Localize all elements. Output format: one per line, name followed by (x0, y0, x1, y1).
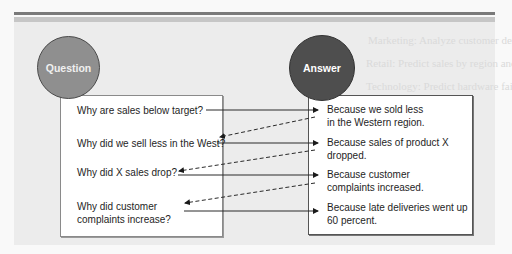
ghost-text-line: Retail: Predict sales by region and dist… (366, 57, 512, 69)
answer-circle: Answer (289, 35, 355, 101)
question-line: Why did X sales drop? (77, 166, 177, 179)
answer-line: Because late deliveries went up (327, 201, 468, 214)
answer-line: Because we sold less (327, 103, 425, 116)
answer-line: Because sales of product X (327, 136, 449, 149)
question-item: Why did we sell less in the West? (77, 137, 225, 150)
five-whys-figure: Marketing: Analyze customer demographics… (0, 0, 512, 254)
question-line: complaints increase? (77, 213, 171, 226)
question-label: Question (46, 62, 92, 74)
answer-item: Because customer complaints increased. (327, 168, 424, 194)
top-rule-dark (14, 12, 495, 15)
question-circle: Question (37, 36, 100, 99)
answer-item: Because sales of product X dropped. (327, 136, 449, 162)
answer-line: in the Western region. (327, 116, 425, 129)
question-line: Why did customer (77, 200, 171, 213)
answer-label: Answer (303, 62, 341, 74)
question-item: Why did X sales drop? (77, 166, 177, 179)
ghost-text-line: Marketing: Analyze customer demographics… (368, 34, 512, 46)
question-line: Why are sales below target? (77, 104, 203, 117)
answer-line: dropped. (327, 149, 449, 162)
question-item: Why are sales below target? (77, 104, 203, 117)
answer-item: Because we sold less in the Western regi… (327, 103, 425, 129)
answer-item: Because late deliveries went up 60 perce… (327, 201, 468, 227)
question-line: Why did we sell less in the West? (77, 137, 225, 150)
answer-line: 60 percent. (327, 214, 468, 227)
question-item: Why did customer complaints increase? (77, 200, 171, 226)
answer-line: complaints increased. (327, 181, 424, 194)
ghost-text-line: Technology: Predict hardware failures. (366, 80, 512, 92)
answer-line: Because customer (327, 168, 424, 181)
